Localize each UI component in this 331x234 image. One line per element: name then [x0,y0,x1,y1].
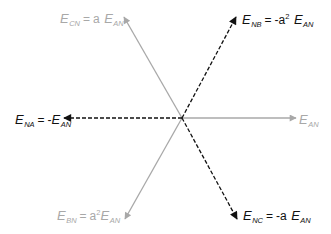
phasor-E-BN-arrow [125,118,182,219]
label-E-CN: ECN=a EAN [60,10,124,26]
label-E-NA: ENA=-EAN [15,111,71,127]
label-E-NC: ENC=-a EAN [243,207,311,223]
phasor-E-NB-arrow [182,17,236,118]
label-E-BN: EBN=a2EAN [57,207,120,223]
phasor-E-CN-arrow [124,17,182,118]
label-E-NB: ENB=-a2 EAN [242,11,314,27]
phasor-E-NC-arrow [182,118,237,219]
label-E-AN: EAN [299,111,319,127]
